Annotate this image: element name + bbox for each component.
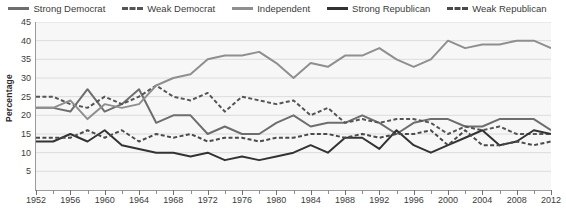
- legend-item-label: Weak Republican: [472, 4, 546, 14]
- x-tick-label: 1956: [55, 196, 85, 205]
- y-tick-label: 45: [0, 18, 31, 27]
- legend-item-label: Independent: [257, 4, 310, 14]
- y-tick-label: 10: [0, 149, 31, 158]
- legend-swatch-icon: [122, 7, 143, 10]
- series-canvas: [36, 22, 551, 190]
- x-tick-label: 1976: [227, 196, 257, 205]
- x-tick-label: 1988: [330, 196, 360, 205]
- plot-area: [36, 22, 551, 190]
- series-line-3: [36, 130, 551, 160]
- legend-item-1[interactable]: Weak Democrat: [122, 4, 215, 14]
- x-tick-mark: [500, 190, 501, 194]
- x-tick-mark: [534, 190, 535, 194]
- x-tick-mark: [225, 190, 226, 194]
- x-tick-mark: [328, 190, 329, 194]
- x-tick-label: 1972: [193, 196, 223, 205]
- x-tick-mark: [122, 190, 123, 194]
- x-tick-mark: [465, 190, 466, 194]
- x-tick-mark: [156, 190, 157, 194]
- x-tick-label: 1960: [90, 196, 120, 205]
- x-tick-mark: [294, 190, 295, 194]
- x-tick-mark: [259, 190, 260, 194]
- legend-swatch-icon: [447, 7, 468, 10]
- x-tick-label: 1964: [124, 196, 154, 205]
- legend-item-2[interactable]: Independent: [232, 4, 310, 14]
- y-tick-label: 35: [0, 55, 31, 64]
- x-tick-label: 2008: [502, 196, 532, 205]
- x-tick-label: 1968: [158, 196, 188, 205]
- y-tick-label: 15: [0, 130, 31, 139]
- y-tick-label: 40: [0, 37, 31, 46]
- legend-item-3[interactable]: Strong Republican: [327, 4, 430, 14]
- x-tick-mark: [431, 190, 432, 194]
- chart-legend: Strong DemocratWeak DemocratIndependentS…: [0, 0, 555, 17]
- legend-swatch-icon: [232, 7, 253, 10]
- x-tick-mark: [53, 190, 54, 194]
- x-tick-label: 1952: [21, 196, 51, 205]
- x-tick-mark: [362, 190, 363, 194]
- legend-item-4[interactable]: Weak Republican: [447, 4, 546, 14]
- x-tick-label: 2000: [433, 196, 463, 205]
- x-tick-mark: [397, 190, 398, 194]
- x-tick-label: 2012: [536, 196, 566, 205]
- legend-item-label: Strong Republican: [352, 4, 430, 14]
- y-axis-tick-labels: 51015202530354045: [0, 0, 31, 211]
- legend-swatch-icon: [327, 7, 348, 10]
- series-line-0: [36, 89, 551, 134]
- x-tick-label: 1992: [364, 196, 394, 205]
- y-tick-label: 20: [0, 111, 31, 120]
- x-axis-tick-labels: 1952195619601964196819721976198019841988…: [0, 196, 555, 211]
- legend-item-label: Strong Democrat: [33, 4, 105, 14]
- y-axis-line: [35, 22, 36, 190]
- x-tick-label: 2004: [467, 196, 497, 205]
- x-tick-label: 1996: [399, 196, 429, 205]
- x-tick-label: 1980: [261, 196, 291, 205]
- legend-item-label: Weak Democrat: [147, 4, 215, 14]
- x-tick-mark: [88, 190, 89, 194]
- x-tick-mark: [191, 190, 192, 194]
- y-tick-label: 5: [0, 167, 31, 176]
- y-tick-label: 30: [0, 74, 31, 83]
- x-tick-label: 1984: [296, 196, 326, 205]
- y-tick-label: 25: [0, 93, 31, 102]
